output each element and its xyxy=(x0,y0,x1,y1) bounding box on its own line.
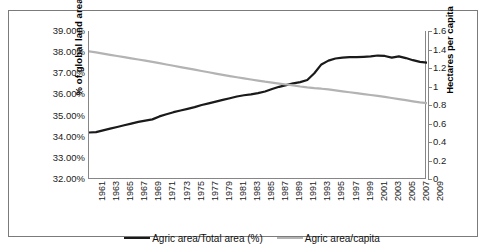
x-tick-label: 1991 xyxy=(308,181,318,217)
left-tick-label: 37.00% xyxy=(31,68,85,78)
x-tick-label: 1965 xyxy=(125,181,135,217)
legend-line-swatch xyxy=(277,237,303,240)
right-tick-mark xyxy=(428,161,432,162)
x-tick-label: 1999 xyxy=(365,181,375,217)
x-tick-label: 1963 xyxy=(111,181,121,217)
right-tick-mark xyxy=(428,87,432,88)
plot-svg xyxy=(89,31,427,179)
right-tick-mark xyxy=(428,50,432,51)
x-tick-label: 1981 xyxy=(238,181,248,217)
x-tick-label: 1983 xyxy=(252,181,262,217)
x-tick-label: 1985 xyxy=(266,181,276,217)
left-tick-label: 36.00% xyxy=(31,89,85,99)
x-axis-tick-labels: 1961196319651967196919711973197519771979… xyxy=(88,181,426,217)
x-tick-label: 1975 xyxy=(196,181,206,217)
right-tick-mark xyxy=(428,31,432,32)
right-tick-mark xyxy=(428,142,432,143)
x-tick-label: 1967 xyxy=(139,181,149,217)
left-tick-label: 32.00% xyxy=(31,174,85,184)
legend-label: Agric area/Total area (%) xyxy=(152,233,263,244)
legend-entry[interactable]: Agric area/Total area (%) xyxy=(124,233,263,244)
right-tick-mark xyxy=(428,124,432,125)
x-tick-label: 2005 xyxy=(407,181,417,217)
legend-label: Agric area/capita xyxy=(305,233,380,244)
x-tick-label: 1989 xyxy=(294,181,304,217)
series-line xyxy=(89,51,427,103)
left-tick-label: 35.00% xyxy=(31,111,85,121)
right-tick-label: 0.4 xyxy=(433,137,459,147)
plot-area xyxy=(88,31,426,179)
x-tick-label: 1971 xyxy=(167,181,177,217)
x-tick-label: 1977 xyxy=(210,181,220,217)
chart-frame: % of global land area 39.00%38.00%37.00%… xyxy=(8,10,478,237)
right-tick-mark xyxy=(428,68,432,69)
left-axis-tick-labels: 39.00%38.00%37.00%36.00%35.00%34.00%33.0… xyxy=(31,31,85,179)
right-tick-label: 0.6 xyxy=(433,119,459,129)
x-tick-label: 1973 xyxy=(182,181,192,217)
left-tick-label: 33.00% xyxy=(31,153,85,163)
legend-line-swatch xyxy=(124,237,150,240)
x-tick-label: 2003 xyxy=(393,181,403,217)
x-tick-label: 1979 xyxy=(224,181,234,217)
right-tick-mark xyxy=(428,179,432,180)
chart-legend: Agric area/Total area (%)Agric area/capi… xyxy=(17,230,487,246)
x-tick-label: 1995 xyxy=(336,181,346,217)
x-tick-label: 1997 xyxy=(351,181,361,217)
left-tick-label: 34.00% xyxy=(31,132,85,142)
left-tick-label: 39.00% xyxy=(31,26,85,36)
right-axis-title: Hectares per capita xyxy=(444,0,460,115)
x-tick-label: 1993 xyxy=(322,181,332,217)
left-tick-label: 38.00% xyxy=(31,47,85,57)
x-tick-label: 2007 xyxy=(421,181,431,217)
x-tick-label: 1987 xyxy=(280,181,290,217)
series-line xyxy=(89,56,427,133)
legend-entry[interactable]: Agric area/capita xyxy=(277,233,380,244)
chart-figure: % of global land area 39.00%38.00%37.00%… xyxy=(0,0,489,248)
x-tick-label: 2001 xyxy=(379,181,389,217)
x-tick-label: 1961 xyxy=(97,181,107,217)
right-tick-mark xyxy=(428,105,432,106)
right-tick-label: 0.2 xyxy=(433,156,459,166)
x-tick-label: 2009 xyxy=(435,181,445,217)
x-tick-label: 1969 xyxy=(153,181,163,217)
